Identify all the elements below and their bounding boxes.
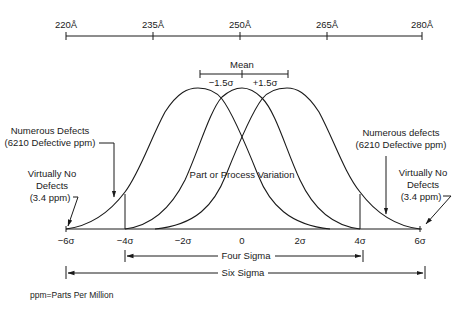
angstrom-tick-label: 250Å [229, 19, 252, 30]
six-sigma-label: Six Sigma [222, 267, 265, 278]
sigma-tick-label: 4σ [354, 235, 365, 246]
mean-bracket: Mean −1.5σ +1.5σ [200, 59, 288, 88]
part-or-process-variation-label: Part or Process Variation [190, 169, 295, 180]
plus-1-5-sigma-label: +1.5σ [253, 77, 278, 88]
left-numerous-defects-label: Numerous Defects [11, 125, 90, 136]
right-virtually-no-label: Virtually No [399, 167, 447, 178]
mean-label: Mean [230, 59, 254, 70]
sigma-tick-label: 6σ [414, 235, 425, 246]
sigma-axis: −6σ −4σ −2σ 0 2σ 4σ 6σ [58, 226, 426, 246]
center-curve [125, 88, 360, 229]
ppm-footnote: ppm=Parts Per Million [30, 290, 114, 300]
sigma-tick-label: 2σ [294, 235, 305, 246]
distribution-curves [66, 88, 420, 229]
angstrom-tick-label: 235Å [142, 19, 165, 30]
angstrom-scale: 220Å 235Å 250Å 265Å 280Å [55, 19, 434, 40]
angstrom-tick-label: 280Å [411, 19, 434, 30]
right-numerous-defects-label: Numerous defects [362, 127, 439, 138]
four-sigma-range: Four Sigma [125, 250, 363, 262]
left-virtually-no-label: Virtually No [28, 168, 76, 179]
angstrom-tick-label: 265Å [316, 19, 339, 30]
right-annotations: Numerous defects (6210 Defective ppm) Vi… [356, 127, 451, 224]
right-defects-label: Defects [407, 179, 439, 190]
six-sigma-diagram: 220Å 235Å 250Å 265Å 280Å Mean −1.5σ +1.5… [0, 0, 473, 314]
right-shifted-curve [155, 88, 420, 229]
left-numerous-defects-arrow [99, 143, 114, 197]
left-numerous-defects-ppm-label: (6210 Defective ppm) [5, 137, 96, 148]
right-numerous-defects-ppm-label: (6210 Defective ppm) [356, 139, 447, 150]
left-annotations: Numerous Defects (6210 Defective ppm) Vi… [5, 125, 114, 226]
six-sigma-range: Six Sigma [66, 266, 425, 279]
minus-1-5-sigma-label: −1.5σ [209, 77, 234, 88]
right-3-4-ppm-label: (3.4 ppm) [401, 191, 442, 202]
sigma-tick-label: −6σ [58, 235, 75, 246]
angstrom-tick-label: 220Å [55, 19, 78, 30]
left-defects-label: Defects [36, 180, 68, 191]
sigma-tick-label: −2σ [175, 235, 192, 246]
left-3-4-ppm-label: (3.4 ppm) [30, 192, 71, 203]
four-sigma-label: Four Sigma [221, 250, 271, 261]
sigma-tick-label: 0 [239, 235, 244, 246]
sigma-tick-label: −4σ [117, 235, 134, 246]
